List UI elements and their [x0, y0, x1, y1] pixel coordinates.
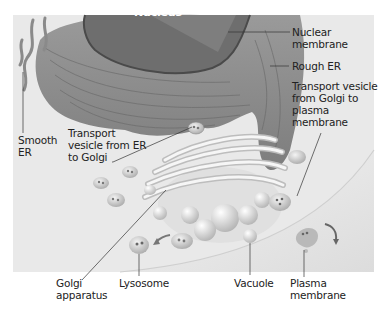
label-nuclear-membrane: Nuclear membrane: [292, 26, 348, 50]
label-transport-vesicle-er-golgi: Transport vesicle from ER to Golgi: [68, 127, 146, 163]
label-vacuole: Vacuole: [234, 277, 274, 289]
label-smooth-er: Smooth ER: [18, 134, 57, 158]
label-golgi-apparatus: Golgi apparatus: [56, 277, 107, 301]
label-plasma-membrane: Plasma membrane: [290, 277, 346, 301]
label-transport-vesicle-golgi-plasma: Transport vesicle from Golgi to plasma m…: [292, 80, 377, 128]
vacuole-shape: [243, 229, 257, 243]
label-nucleus: Nucleus: [134, 7, 182, 19]
endomembrane-diagram: Nucleus Nuclear membrane Rough ER Smooth…: [0, 0, 384, 310]
lysosome-shape: [129, 236, 149, 254]
label-rough-er: Rough ER: [292, 60, 341, 72]
label-lysosome: Lysosome: [119, 277, 169, 289]
